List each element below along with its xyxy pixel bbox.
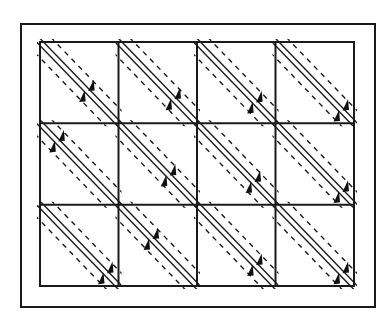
grid-cell: [263, 193, 366, 298]
arrowhead-icon: [170, 164, 177, 176]
arrowhead-icon: [107, 262, 114, 274]
solid-lane-line: [113, 121, 200, 211]
arrowhead-icon: [174, 88, 181, 100]
arrowhead-icon: [256, 91, 263, 103]
solid-lane-line: [270, 202, 357, 292]
grid-cell: [28, 193, 131, 298]
grid-cell: [263, 111, 366, 216]
solid-lane-line: [34, 39, 121, 129]
arrowhead-icon: [153, 227, 160, 239]
solid-lane-line: [38, 117, 125, 207]
grid-cell: [28, 111, 131, 216]
arrowhead-icon: [247, 264, 254, 276]
solid-lane-line: [191, 39, 278, 129]
solid-lane-line: [195, 199, 282, 289]
solid-lane-line: [195, 36, 282, 126]
arrowhead-icon: [333, 273, 340, 285]
solid-lane-line: [113, 202, 200, 292]
arrowhead-icon: [255, 171, 262, 183]
solid-lane-line: [191, 121, 278, 211]
grid-cell: [185, 193, 288, 298]
solid-lane-line: [270, 121, 357, 211]
solid-lane-line: [38, 199, 125, 289]
grid-cell: [185, 111, 288, 216]
solid-lane-line: [116, 199, 203, 289]
solid-lane-line: [273, 117, 360, 207]
solid-lane-line: [116, 117, 203, 207]
grid-cell: [28, 30, 131, 135]
solid-lane-line: [195, 117, 282, 207]
solid-lane-line: [38, 36, 125, 126]
arrowhead-icon: [98, 273, 105, 285]
arrowhead-icon: [144, 238, 151, 250]
solid-lane-line: [34, 121, 121, 211]
lane-grid-diagram: [0, 0, 389, 322]
grid-cell: [263, 30, 366, 135]
arrowhead-icon: [246, 182, 253, 194]
arrowhead-icon: [161, 175, 168, 187]
arrowhead-icon: [333, 110, 340, 122]
arrowhead-icon: [247, 102, 254, 114]
solid-lane-line: [273, 199, 360, 289]
arrowhead-icon: [342, 262, 349, 274]
solid-lane-line: [113, 39, 200, 129]
arrowhead-icon: [58, 130, 65, 142]
solid-lane-line: [270, 39, 357, 129]
arrowhead-icon: [79, 90, 86, 102]
arrowhead-icon: [333, 191, 340, 203]
arrowhead-icon: [256, 253, 263, 265]
arrowhead-icon: [165, 99, 172, 111]
solid-lane-line: [273, 36, 360, 126]
arrowhead-icon: [88, 79, 95, 91]
solid-lane-line: [116, 36, 203, 126]
grid-cell: [185, 30, 288, 135]
grid-cell: [106, 30, 209, 135]
solid-lane-line: [191, 202, 278, 292]
grid-cell: [106, 111, 209, 216]
solid-lane-line: [34, 202, 121, 292]
arrowhead-icon: [49, 141, 56, 153]
grid-cell: [106, 193, 209, 298]
arrowhead-icon: [342, 99, 349, 111]
arrowhead-icon: [342, 180, 349, 192]
